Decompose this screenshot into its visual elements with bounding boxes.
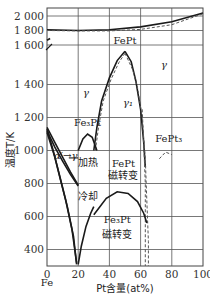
annotation-label: α′→γ: [54, 150, 77, 161]
annotation-label: Fe₃Pt: [104, 214, 131, 225]
x-axis-label: Pt含量(at%): [96, 282, 153, 294]
x-axis-start-label: Fe: [41, 277, 53, 288]
annotation-label: 加热: [78, 156, 98, 168]
series-FePt3-order: [159, 152, 172, 159]
y-tick-label: 600: [24, 210, 44, 222]
series-FePt-order-right: [125, 51, 145, 167]
series-Fe3Pt-magnetic: [78, 207, 94, 265]
x-tick-label: 80: [165, 268, 178, 280]
x-tick-label: 40: [103, 268, 116, 280]
annotation-label: 磁转变: [108, 169, 138, 181]
x-tick-label: 60: [134, 268, 147, 280]
x-tick-label: 100: [193, 268, 210, 280]
annotation-label: 磁转变: [102, 228, 132, 240]
phase-diagram-chart: 0204060801001 6001 8002 0004006008001 00…: [0, 0, 210, 299]
y-tick-label: 1 200: [14, 111, 44, 123]
series-FePt-order-left-dashed: [95, 53, 125, 150]
y-tick-label: 1 600: [14, 39, 44, 51]
annotation-label: FePt: [113, 35, 136, 46]
y-tick-label: 1 000: [14, 144, 44, 156]
annotations: γFePtγγ₁Fe₃PtFePt₃α′→γ加热FePt磁转变冷却Fe₃Pt磁转…: [54, 35, 182, 240]
annotation-label: 冷却: [78, 190, 98, 202]
annotation-label: Fe₃Pt: [74, 117, 101, 128]
annotation-label: γ: [161, 59, 167, 70]
annotation-label: γ: [83, 87, 89, 98]
y-tick-label: 400: [24, 243, 44, 255]
y-tick-label: 2 000: [14, 10, 44, 22]
y-tick-label: 1 800: [14, 24, 44, 36]
y-tick-label: 800: [24, 177, 44, 189]
annotation-label: FePt: [112, 158, 135, 169]
annotation-label: γ₁: [123, 97, 133, 108]
x-tick-label: 20: [72, 268, 85, 280]
y-axis-label: 温度T/K: [4, 132, 16, 168]
y-tick-label: 1 400: [14, 78, 44, 90]
annotation-label: FePt₃: [155, 133, 182, 144]
